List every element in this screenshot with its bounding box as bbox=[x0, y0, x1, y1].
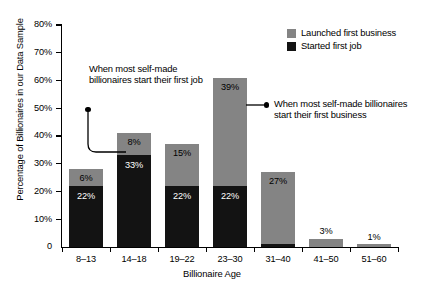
bar-chart: 010%20%30%40%50%60%70%80% 22%6%33%8%22%1… bbox=[0, 0, 424, 282]
annotation-first-business-dot bbox=[264, 102, 269, 107]
annotation-first-business-leader-line bbox=[0, 0, 424, 282]
